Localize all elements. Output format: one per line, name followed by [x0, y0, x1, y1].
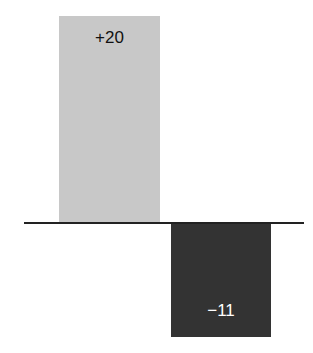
- bar-negative: −11: [171, 223, 271, 337]
- bar-value-label: −11: [171, 301, 271, 321]
- bar-value-label: +20: [59, 28, 160, 48]
- bar-positive: +20: [59, 16, 160, 223]
- zero-axis-line: [24, 222, 304, 224]
